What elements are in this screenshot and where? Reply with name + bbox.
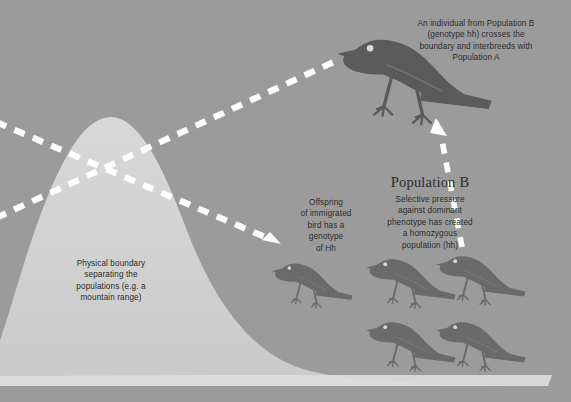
dashed-arrow-to-offspring — [0, 122, 281, 244]
caption-migration-note: An individual from Population B (genotyp… — [390, 18, 562, 64]
caption-physical-boundary: Physical boundary separating the populat… — [48, 258, 174, 304]
infographic-gene-flow-diagram: An individual from Population B (genotyp… — [0, 0, 571, 402]
caption-population-b-heading: Population B — [372, 174, 488, 190]
caption-offspring-genotype: Offspring of immigrated bird has a genot… — [286, 197, 366, 254]
caption-population-b-body: Selective pressure against dominant phen… — [364, 194, 496, 251]
